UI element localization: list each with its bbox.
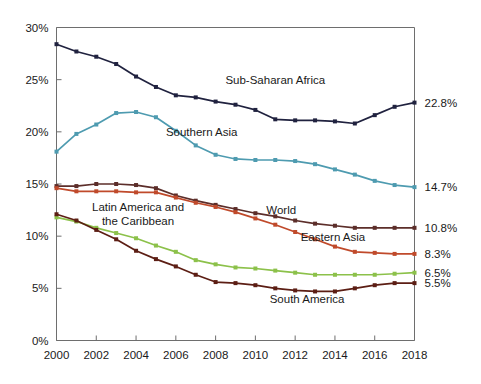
data-point [194, 95, 198, 99]
data-point [293, 118, 297, 122]
data-point [114, 111, 118, 115]
data-point [413, 226, 417, 230]
series-southern-asia [55, 110, 417, 189]
data-point [253, 216, 257, 220]
data-point [214, 205, 218, 209]
data-point [353, 273, 357, 277]
series-end-value: 14.7% [425, 181, 458, 193]
series-end-value: 22.8% [425, 97, 458, 109]
x-tick-label: 2008 [203, 349, 229, 361]
data-point [353, 250, 357, 254]
data-point [373, 179, 377, 183]
data-point [74, 132, 78, 136]
data-point [273, 286, 277, 290]
x-tick-label: 2006 [163, 349, 189, 361]
data-point [293, 271, 297, 275]
data-point [114, 237, 118, 241]
data-point [293, 288, 297, 292]
data-point [313, 273, 317, 277]
data-point [74, 219, 78, 223]
data-point [55, 212, 59, 216]
data-point [55, 150, 59, 154]
data-point [194, 258, 198, 262]
y-tick-marks [57, 28, 62, 341]
data-point [393, 183, 397, 187]
data-point [154, 257, 158, 261]
data-point [373, 283, 377, 287]
data-point [253, 267, 257, 271]
series-label: World [266, 204, 296, 216]
data-point [94, 55, 98, 59]
data-point [114, 62, 118, 66]
data-point [134, 236, 138, 240]
data-point [214, 100, 218, 104]
data-point [313, 118, 317, 122]
data-point [174, 250, 178, 254]
y-tick-label: 5% [32, 282, 49, 294]
data-point [234, 157, 238, 161]
x-tick-label: 2004 [123, 349, 149, 361]
y-tick-labels: 0%5%10%15%20%25%30% [25, 22, 48, 347]
y-tick-label: 30% [25, 22, 48, 34]
series-end-values: 22.8%14.7%10.8%8.3%6.5%5.5% [425, 97, 458, 290]
data-point [373, 113, 377, 117]
data-point [114, 189, 118, 193]
data-point [174, 196, 178, 200]
data-point [134, 75, 138, 79]
series-label: Southern Asia [166, 126, 238, 138]
data-point [353, 121, 357, 125]
data-point [353, 173, 357, 177]
chart-container: 0%5%10%15%20%25%30% 20002002200420062008… [0, 0, 481, 384]
data-point [253, 108, 257, 112]
x-tick-label: 2016 [362, 349, 388, 361]
data-point [273, 269, 277, 273]
data-point [94, 228, 98, 232]
data-point [134, 249, 138, 253]
data-point [413, 271, 417, 275]
data-point [413, 101, 417, 105]
data-point [413, 185, 417, 189]
data-point [353, 286, 357, 290]
data-point [333, 119, 337, 123]
line-chart: 0%5%10%15%20%25%30% 20002002200420062008… [0, 0, 481, 384]
x-tick-label: 2000 [44, 349, 70, 361]
data-point [154, 115, 158, 119]
data-point [373, 251, 377, 255]
data-point [214, 280, 218, 284]
series-label: South America [270, 293, 345, 305]
data-point [134, 190, 138, 194]
data-point [313, 162, 317, 166]
data-point [114, 231, 118, 235]
data-point [154, 186, 158, 190]
data-point [293, 159, 297, 163]
series-end-value: 5.5% [425, 277, 451, 289]
data-point [234, 210, 238, 214]
y-tick-label: 15% [25, 178, 48, 190]
y-tick-label: 0% [32, 335, 49, 347]
data-point [174, 264, 178, 268]
x-tick-marks [57, 336, 415, 341]
data-point [393, 281, 397, 285]
x-tick-labels: 2000200220042006200820102012201420162018 [44, 349, 428, 361]
data-point [373, 226, 377, 230]
data-point [333, 273, 337, 277]
data-point [413, 281, 417, 285]
data-point [194, 273, 198, 277]
data-point [214, 153, 218, 157]
data-point [393, 272, 397, 276]
data-point [293, 219, 297, 223]
data-point [234, 265, 238, 269]
series-annotations: Sub-Saharan AfricaSouthern AsiaWorldLati… [92, 74, 366, 305]
data-point [353, 226, 357, 230]
series-label: Eastern Asia [301, 231, 366, 243]
data-point [94, 189, 98, 193]
data-point [413, 252, 417, 256]
data-point [154, 244, 158, 248]
data-point [333, 224, 337, 228]
x-tick-label: 2010 [243, 349, 269, 361]
data-point [214, 262, 218, 266]
data-point [393, 105, 397, 109]
data-point [333, 167, 337, 171]
x-tick-label: 2018 [402, 349, 428, 361]
series-line [57, 112, 415, 187]
